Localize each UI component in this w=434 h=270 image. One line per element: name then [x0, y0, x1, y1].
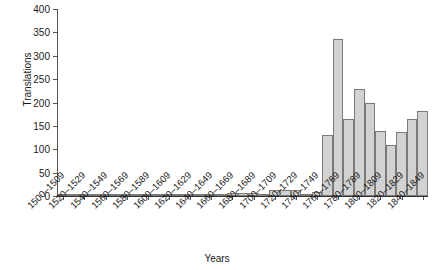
y-axis-tick-label: 50	[39, 167, 50, 178]
plot-area	[58, 9, 428, 196]
y-axis-tick-label: 300	[33, 50, 50, 61]
y-axis-tick-label: 150	[33, 120, 50, 131]
y-axis-tick-label: 400	[33, 4, 50, 15]
y-axis-tick-label: 100	[33, 144, 50, 155]
x-axis-tick-labels: 1500–15091520–15291540–15491560–15691580…	[58, 199, 430, 261]
y-axis-tick-label: 200	[33, 97, 50, 108]
y-axis-tick-label: 250	[33, 74, 50, 85]
x-axis-title: Years	[0, 253, 434, 264]
y-axis-tick-label: 350	[33, 27, 50, 38]
translations-bar-chart: Translations 050100150200250300350400 15…	[0, 0, 434, 270]
